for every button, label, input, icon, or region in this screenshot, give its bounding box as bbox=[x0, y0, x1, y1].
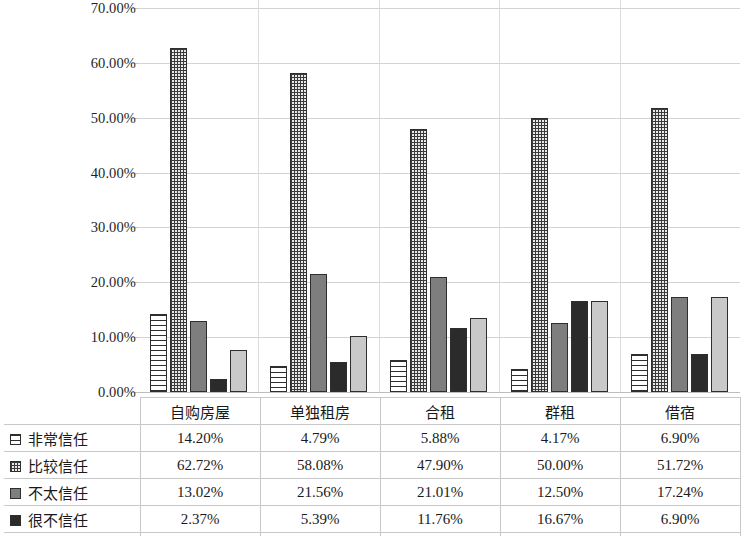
table-cell: 4.17% bbox=[500, 425, 620, 452]
table-cell: 16.67% bbox=[500, 506, 620, 533]
table-cell: 2.37% bbox=[140, 506, 260, 533]
bar bbox=[410, 129, 427, 392]
table-cell: 16.66% bbox=[500, 533, 620, 536]
table-cell: 14.20% bbox=[140, 425, 260, 452]
table-cell: 62.72% bbox=[140, 452, 260, 479]
bar bbox=[150, 314, 167, 392]
bar bbox=[290, 73, 307, 392]
table-cell: 58.08% bbox=[260, 452, 380, 479]
bar bbox=[310, 274, 327, 392]
table-cell: 50.00% bbox=[500, 452, 620, 479]
category-separator bbox=[379, 0, 380, 392]
bar-group bbox=[620, 0, 740, 392]
plot-area bbox=[138, 0, 740, 392]
legend-entry-label: 非常信任 bbox=[28, 432, 88, 448]
legend-entry: 很不信任 bbox=[4, 506, 140, 533]
table-column-header: 合租 bbox=[380, 398, 500, 425]
table-row: 非常信任14.20%4.79%5.88%4.17%6.90% bbox=[4, 425, 740, 452]
bar bbox=[571, 301, 588, 392]
y-axis-label: 60.00% bbox=[58, 56, 136, 70]
bar bbox=[170, 48, 187, 392]
table-header-row: 自购房屋单独租房合租群租借宿 bbox=[4, 398, 740, 425]
y-axis-label: 70.00% bbox=[58, 1, 136, 15]
table-column-header: 群租 bbox=[500, 398, 620, 425]
bar bbox=[230, 350, 247, 392]
table-cell: 17.24 bbox=[620, 533, 740, 536]
category-separator bbox=[499, 0, 500, 392]
bar bbox=[470, 318, 487, 392]
bar bbox=[691, 354, 708, 392]
table-cell: 4.79% bbox=[260, 425, 380, 452]
table-column-header: 单独租房 bbox=[260, 398, 380, 425]
bar bbox=[450, 328, 467, 393]
category-separator bbox=[258, 0, 259, 392]
legend-entry: 说不清 bbox=[4, 533, 140, 536]
legend-swatch-gray-icon bbox=[10, 488, 21, 499]
y-axis-label: 20.00% bbox=[58, 275, 136, 289]
table-header: 自购房屋单独租房合租群租借宿 bbox=[4, 398, 740, 425]
bar bbox=[190, 321, 207, 392]
table-cell: 21.56% bbox=[260, 479, 380, 506]
bar bbox=[210, 379, 227, 392]
bar bbox=[330, 362, 347, 392]
bar-group bbox=[258, 0, 378, 392]
bar bbox=[631, 354, 648, 392]
legend-swatch-dotted-icon bbox=[10, 461, 21, 472]
table-cell: 12.50% bbox=[500, 479, 620, 506]
bar bbox=[671, 297, 688, 392]
table-cell: 10.18% bbox=[260, 533, 380, 536]
legend-swatch-stripes-icon bbox=[10, 434, 21, 445]
bar-chart: 0.00%10.00%20.00%30.00%40.00%50.00%60.00… bbox=[0, 0, 744, 396]
y-axis-label: 30.00% bbox=[58, 220, 136, 234]
table-cell: 7.69% bbox=[140, 533, 260, 536]
table-cell: 5.88% bbox=[380, 425, 500, 452]
table-body: 非常信任14.20%4.79%5.88%4.17%6.90%比较信任62.72%… bbox=[4, 425, 740, 536]
table-cell: 13.02% bbox=[140, 479, 260, 506]
bar-group bbox=[379, 0, 499, 392]
y-axis-label: 50.00% bbox=[58, 111, 136, 125]
bar bbox=[551, 323, 568, 392]
table-row: 很不信任2.37%5.39%11.76%16.67%6.90% bbox=[4, 506, 740, 533]
gridline bbox=[138, 392, 740, 393]
table-cell: 5.39% bbox=[260, 506, 380, 533]
legend-entry-label: 比较信任 bbox=[28, 459, 88, 475]
table-cell: 11.76% bbox=[380, 506, 500, 533]
table-cell: 13.45% bbox=[380, 533, 500, 536]
table-cell: 51.72% bbox=[620, 452, 740, 479]
data-table: 自购房屋单独租房合租群租借宿 非常信任14.20%4.79%5.88%4.17%… bbox=[4, 397, 741, 536]
table-cell: 47.90% bbox=[380, 452, 500, 479]
table-row: 说不清7.69%10.18%13.45%16.66%17.24 bbox=[4, 533, 740, 536]
bar bbox=[711, 297, 728, 392]
legend-swatch-dark-icon bbox=[10, 515, 21, 526]
bar bbox=[591, 301, 608, 392]
table-cell: 17.24% bbox=[620, 479, 740, 506]
bar bbox=[531, 118, 548, 392]
chart-page: 0.00%10.00%20.00%30.00%40.00%50.00%60.00… bbox=[0, 0, 744, 536]
bar bbox=[511, 369, 528, 392]
table-cell: 6.90% bbox=[620, 506, 740, 533]
bar bbox=[651, 108, 668, 392]
legend-entry-label: 很不信任 bbox=[28, 513, 88, 529]
bar-group bbox=[138, 0, 258, 392]
bar-group bbox=[499, 0, 619, 392]
bar bbox=[270, 366, 287, 392]
table-column-header: 借宿 bbox=[620, 398, 740, 425]
legend-entry: 不太信任 bbox=[4, 479, 140, 506]
table-cell: 6.90% bbox=[620, 425, 740, 452]
table-cell: 21.01% bbox=[380, 479, 500, 506]
table-row: 不太信任13.02%21.56%21.01%12.50%17.24% bbox=[4, 479, 740, 506]
legend-entry-label: 不太信任 bbox=[28, 486, 88, 502]
category-separator bbox=[620, 0, 621, 392]
table-corner-cell bbox=[4, 398, 140, 425]
y-axis-label: 10.00% bbox=[58, 330, 136, 344]
legend-entry: 非常信任 bbox=[4, 425, 140, 452]
y-axis-label: 40.00% bbox=[58, 166, 136, 180]
table-column-header: 自购房屋 bbox=[140, 398, 260, 425]
bar bbox=[390, 360, 407, 392]
table-row: 比较信任62.72%58.08%47.90%50.00%51.72% bbox=[4, 452, 740, 479]
bar bbox=[350, 336, 367, 392]
bar bbox=[430, 277, 447, 392]
legend-entry: 比较信任 bbox=[4, 452, 140, 479]
